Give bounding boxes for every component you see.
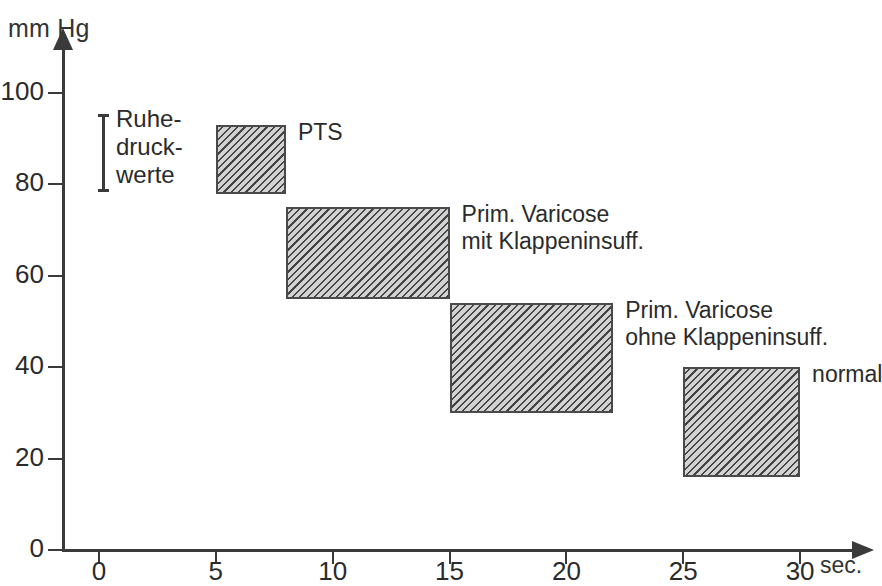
x-axis-tick-label: 20 xyxy=(541,556,591,586)
y-axis-tick-label: 20 xyxy=(0,442,44,473)
x-axis-line xyxy=(62,549,855,552)
y-axis-tick-label: 60 xyxy=(0,259,44,290)
x-axis-tick-label: 15 xyxy=(425,556,475,586)
y-axis-tick xyxy=(48,92,63,94)
data-box xyxy=(683,367,800,477)
y-axis-tick xyxy=(48,275,63,277)
data-box xyxy=(450,303,614,413)
x-axis-tick-label: 10 xyxy=(308,556,358,586)
data-box-label: normal xyxy=(812,361,882,388)
y-axis-tick xyxy=(48,366,63,368)
data-box-label: Prim. Varicose mit Klappeninsuff. xyxy=(462,201,644,255)
y-axis-tick-label: 0 xyxy=(0,533,44,564)
bracket-stem xyxy=(102,114,105,192)
y-axis-unit-label: mm Hg xyxy=(8,14,90,43)
y-axis-tick xyxy=(48,549,63,551)
x-axis-unit-label: sec. xyxy=(820,552,862,579)
y-axis-line xyxy=(62,46,65,551)
y-axis-tick xyxy=(48,458,63,460)
x-axis-tick-label: 5 xyxy=(191,556,241,586)
rest-pressure-label: Ruhe- druck- werte xyxy=(116,105,183,189)
data-box-label: Prim. Varicose ohne Klappeninsuff. xyxy=(625,297,828,351)
data-box xyxy=(216,125,286,194)
x-axis-tick-label: 25 xyxy=(658,556,708,586)
y-axis-tick-label: 40 xyxy=(0,350,44,381)
bracket-cap-bottom xyxy=(98,189,109,192)
y-axis-tick-label: 100 xyxy=(0,76,44,107)
x-axis-tick-label: 0 xyxy=(74,556,124,586)
y-axis-tick-label: 80 xyxy=(0,167,44,198)
x-axis-tick-label: 30 xyxy=(775,556,825,586)
data-box xyxy=(286,207,450,298)
chart-figure: mm Hg sec. 020406080100 051015202530 Ruh… xyxy=(0,0,882,586)
data-box-label: PTS xyxy=(298,119,343,146)
y-axis-tick xyxy=(48,183,63,185)
